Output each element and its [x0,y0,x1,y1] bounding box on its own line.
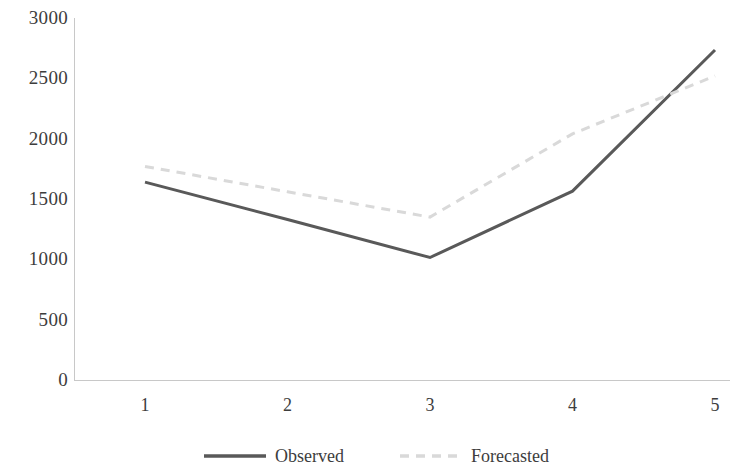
x-axis-tick-label: 5 [695,396,735,414]
plot-area [75,18,730,380]
y-axis-tick-labels: 050010001500200025003000 [0,0,68,470]
y-axis-tick-label: 3000 [2,8,68,27]
x-axis-line [74,380,730,381]
chart-legend: ObservedForecasted [0,442,753,470]
legend-item-observed[interactable]: Observed [204,447,344,465]
legend-item-forecasted[interactable]: Forecasted [400,447,549,465]
series-line-forecasted [145,76,715,217]
series-canvas [75,18,730,380]
legend-label: Observed [275,447,344,465]
x-axis-tick-label: 2 [268,396,308,414]
legend-label: Forecasted [471,447,549,465]
legend-swatch-dashed-line-icon [400,450,462,462]
x-axis-tick-label: 1 [125,396,165,414]
y-axis-tick-label: 0 [2,370,68,389]
series-line-observed [145,50,715,258]
y-axis-tick-label: 1500 [2,189,68,208]
y-axis-tick-label: 2000 [2,129,68,148]
legend-swatch-solid-line-icon [204,450,266,462]
line-chart: 050010001500200025003000 12345 ObservedF… [0,0,753,470]
x-axis-tick-label: 4 [553,396,593,414]
y-axis-tick-label: 1000 [2,249,68,268]
y-axis-tick-label: 500 [2,310,68,329]
y-axis-tick-label: 2500 [2,68,68,87]
x-axis-tick-label: 3 [410,396,450,414]
